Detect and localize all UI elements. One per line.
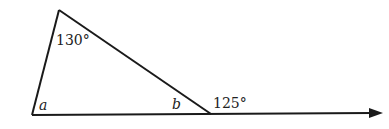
angle-b-label: b [172, 97, 181, 111]
base-ray [32, 113, 372, 115]
diagram-canvas: 130° a b 125° [0, 0, 389, 129]
arrowhead-icon [369, 108, 383, 118]
triangle-figure [0, 0, 389, 129]
angle-a-label: a [39, 98, 47, 112]
right-side [59, 10, 211, 114]
apex-angle-label: 130° [56, 33, 90, 47]
exterior-angle-label: 125° [213, 96, 247, 110]
